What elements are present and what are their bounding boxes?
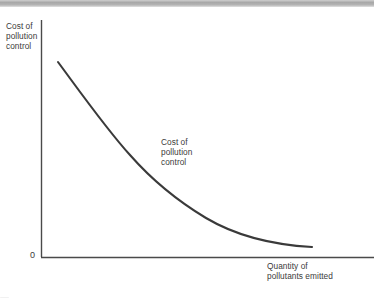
x-axis-label: Quantity of pollutants emitted bbox=[267, 261, 333, 281]
bottom-cut-off-text-fragment: — bbox=[0, 292, 374, 301]
curve-annotation-label: Cost of pollution control bbox=[161, 137, 192, 168]
pollution-control-cost-figure: Cost of pollution control Cost of pollut… bbox=[0, 0, 374, 301]
y-axis-label: Cost of pollution control bbox=[6, 21, 37, 52]
origin-tick-label: 0 bbox=[30, 250, 35, 260]
